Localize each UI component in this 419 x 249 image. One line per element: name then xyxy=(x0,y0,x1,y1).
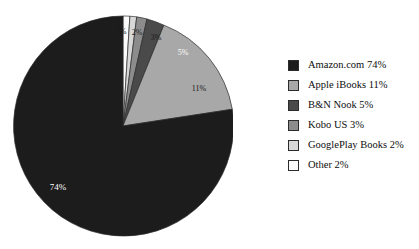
legend-swatch-icon xyxy=(288,100,299,111)
legend-item-label: Amazon.com 74% xyxy=(308,60,386,71)
legend-item-googleplay-books[interactable]: GooglePlay Books 2% xyxy=(288,135,419,155)
pie-label-kobo: 3% xyxy=(151,33,162,42)
legend-swatch-icon xyxy=(288,120,299,131)
legend-item-label: GooglePlay Books 2% xyxy=(308,140,404,151)
legend-swatch-icon xyxy=(288,160,299,171)
pie-plot-area: 2% 2% 3% 5% 11% 74% xyxy=(13,13,233,239)
legend-item-label: Kobo US 3% xyxy=(308,120,364,131)
pie-label-googleplay: 2% xyxy=(132,28,143,37)
pie-label-bn-nook: 5% xyxy=(178,48,189,57)
chart-legend: Amazon.com 74% Apple iBooks 11% B&N Nook… xyxy=(288,55,419,175)
legend-item-kobo-us[interactable]: Kobo US 3% xyxy=(288,115,419,135)
legend-item-label: B&N Nook 5% xyxy=(308,100,373,111)
legend-item-amazon[interactable]: Amazon.com 74% xyxy=(288,55,419,75)
legend-swatch-icon xyxy=(288,140,299,151)
pie-label-amazon: 74% xyxy=(50,182,67,192)
legend-swatch-icon xyxy=(288,60,299,71)
pie-svg: 2% 2% 3% 5% 11% 74% xyxy=(13,13,233,239)
legend-item-other[interactable]: Other 2% xyxy=(288,155,419,175)
legend-swatch-icon xyxy=(288,80,299,91)
legend-item-bn-nook[interactable]: B&N Nook 5% xyxy=(288,95,419,115)
pie-chart: 2% 2% 3% 5% 11% 74% Amazon.com 74% Apple… xyxy=(0,0,419,249)
legend-item-apple-ibooks[interactable]: Apple iBooks 11% xyxy=(288,75,419,95)
legend-item-label: Apple iBooks 11% xyxy=(308,80,388,91)
legend-item-label: Other 2% xyxy=(308,160,349,171)
pie-label-apple-ibooks: 11% xyxy=(192,84,207,93)
pie-label-other: 2% xyxy=(116,27,127,36)
pie-slices xyxy=(14,16,233,236)
